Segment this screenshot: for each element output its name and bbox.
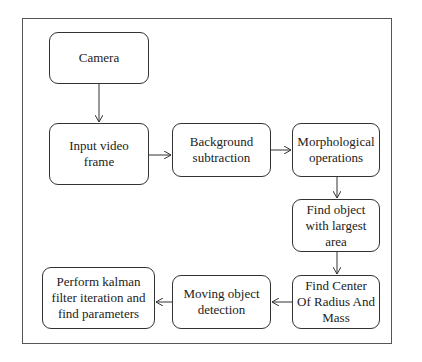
node-camera: Camera: [49, 32, 149, 84]
node-label: Input video frame: [54, 138, 144, 170]
node-label: Morphological operations: [297, 134, 375, 166]
node-label: Find object with largest area: [297, 202, 375, 250]
node-moving-object-detection: Moving object detection: [172, 275, 271, 329]
node-find-largest-object: Find object with largest area: [292, 199, 380, 252]
node-background-subtraction: Background subtraction: [172, 123, 271, 177]
node-kalman-filter: Perform kalman filter iteration and find…: [42, 267, 155, 329]
node-label: Moving object detection: [177, 286, 266, 318]
node-find-center: Find Center Of Radius And Mass: [292, 275, 380, 329]
node-label: Perform kalman filter iteration and find…: [47, 274, 150, 322]
node-label: Camera: [79, 50, 119, 66]
node-label: Background subtraction: [177, 134, 266, 166]
node-morphological-operations: Morphological operations: [292, 123, 380, 177]
node-input-video-frame: Input video frame: [49, 123, 149, 185]
node-label: Find Center Of Radius And Mass: [297, 278, 375, 326]
